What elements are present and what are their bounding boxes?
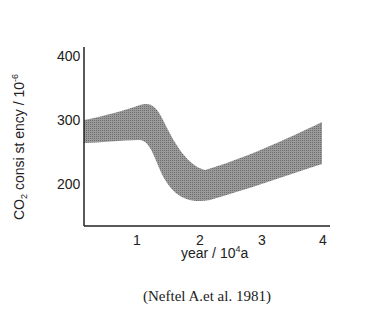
y-tick-400: 400 [57,48,80,64]
x-axis-label: year / 104a [181,244,248,261]
citation: (Neftel A.et al. 1981) [143,288,271,305]
x-tick-3: 3 [258,232,266,248]
co2-range-band [84,104,322,201]
y-tick-200: 200 [57,176,80,192]
y-tick-300: 300 [57,112,80,128]
chart-plot-area [0,0,369,330]
y-axis-label: CO2 consi st ency / 10-6 [10,74,29,220]
x-tick-4: 4 [319,232,327,248]
x-tick-1: 1 [133,232,141,248]
